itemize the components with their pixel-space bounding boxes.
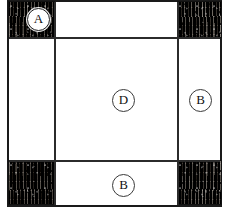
figure-canvas: A D B B xyxy=(0,0,229,218)
partition-line-top xyxy=(9,37,220,39)
callout-d: D xyxy=(112,89,135,112)
callout-b-right: B xyxy=(189,89,212,112)
region-bottom-left-corner xyxy=(8,160,55,205)
region-left-edge-panel xyxy=(9,38,54,160)
speckle-texture xyxy=(178,161,221,204)
partition-line-left xyxy=(54,2,56,205)
region-top-right-corner xyxy=(177,1,222,38)
callout-b-bottom: B xyxy=(112,174,135,197)
region-top-edge-panel xyxy=(54,2,178,37)
partition-line-bottom xyxy=(9,160,220,162)
speckle-texture xyxy=(178,2,221,37)
speckle-texture xyxy=(9,161,54,204)
region-bottom-right-corner xyxy=(177,160,222,205)
partition-line-right xyxy=(177,2,179,205)
callout-a: A xyxy=(27,8,50,31)
diagram-frame: A D B B xyxy=(7,0,222,207)
